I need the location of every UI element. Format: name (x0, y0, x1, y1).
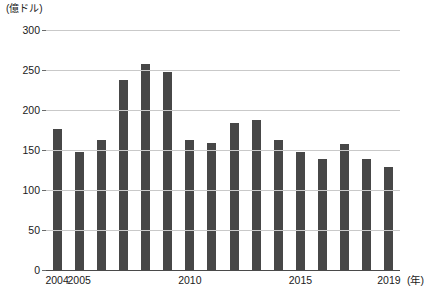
y-axis-tick-mark (42, 30, 46, 31)
y-axis-unit-label: (億ドル) (6, 3, 43, 15)
bar-chart: (億ドル) 050100150200250300 200420052010201… (0, 0, 429, 307)
gridline (46, 230, 400, 231)
y-axis-tick-label: 250 (22, 65, 40, 75)
bar (384, 167, 393, 270)
bar (296, 152, 305, 270)
plot-area (46, 30, 400, 270)
y-axis-tick-mark (42, 150, 46, 151)
y-axis-tick-labels: 050100150200250300 (0, 30, 40, 270)
gridline (46, 70, 400, 71)
y-axis-tick-mark (42, 270, 46, 271)
bar (340, 144, 349, 270)
y-axis-tick-label: 150 (22, 145, 40, 155)
bar (252, 120, 261, 270)
bar (75, 152, 84, 270)
bar (185, 140, 194, 270)
y-axis-tick-mark (42, 230, 46, 231)
bar (163, 72, 172, 270)
gridline (46, 30, 400, 31)
y-axis-tick-mark (42, 190, 46, 191)
bar (97, 140, 106, 270)
y-axis-tick-mark (42, 70, 46, 71)
bar (207, 143, 216, 270)
x-axis-tick-label: 2004 (45, 274, 68, 286)
bar (318, 159, 327, 270)
x-axis-unit-label: (年) (407, 274, 424, 286)
bar (230, 123, 239, 270)
bar (362, 159, 371, 270)
x-axis-tick-label: 2005 (68, 274, 91, 286)
x-axis-tick-label: 2015 (289, 274, 312, 286)
y-axis-tick-label: 300 (22, 25, 40, 35)
gridline (46, 110, 400, 111)
y-axis-tick-label: 50 (28, 225, 40, 235)
x-axis-tick-labels: 20042005201020152019(年) (0, 274, 429, 294)
bar (119, 80, 128, 270)
gridline (46, 190, 400, 191)
gridline (46, 150, 400, 151)
y-axis-tick-label: 200 (22, 105, 40, 115)
x-axis-tick-label: 2019 (377, 274, 400, 286)
x-axis-tick-label: 2010 (178, 274, 201, 286)
x-axis-line (46, 270, 400, 271)
bar (141, 64, 150, 270)
bar (274, 140, 283, 270)
y-axis-tick-label: 100 (22, 185, 40, 195)
y-axis-tick-mark (42, 110, 46, 111)
